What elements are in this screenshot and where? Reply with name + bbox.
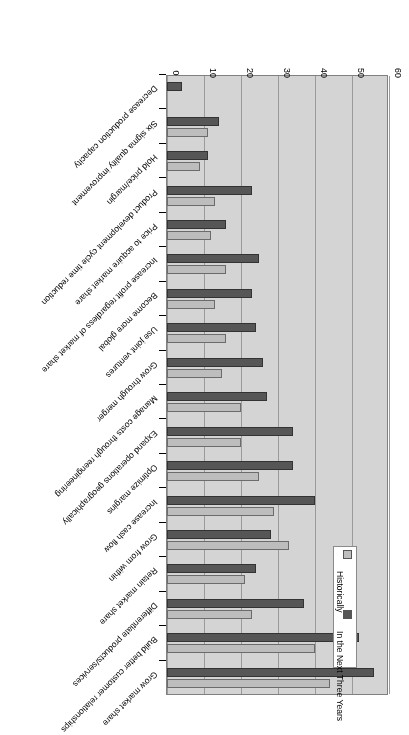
bar-next-three-years	[167, 564, 256, 573]
category-label: Become more global	[97, 290, 160, 353]
bar-group	[167, 350, 387, 384]
bar-group	[167, 418, 387, 452]
bar-historically	[167, 197, 215, 206]
bar-historically	[167, 541, 289, 550]
legend-entry-next-three-years: In the Next Three Years	[334, 607, 356, 667]
bar-next-three-years	[167, 358, 263, 367]
bar-historically	[167, 231, 211, 240]
bar-historically	[167, 679, 330, 688]
bar-next-three-years	[167, 186, 252, 195]
bar-next-three-years	[167, 151, 208, 160]
bar-next-three-years	[167, 461, 293, 470]
bar-group	[167, 246, 387, 280]
bar-next-three-years	[167, 496, 315, 505]
plot-area: Historically In the Next Three Years	[166, 75, 388, 695]
value-tick-label: 30	[282, 58, 292, 88]
legend-entry-historically: Historically	[334, 547, 356, 607]
bar-group	[167, 212, 387, 246]
bar-historically	[167, 265, 226, 274]
value-tick-label: 40	[319, 58, 329, 88]
bar-historically	[167, 438, 241, 447]
bar-next-three-years	[167, 599, 304, 608]
value-tick-label: 0	[171, 58, 181, 88]
category-label: Grow through merger	[95, 359, 160, 424]
bar-next-three-years	[167, 323, 256, 332]
category-label: Product development cycle time reduction	[40, 187, 160, 307]
value-tick-label: 20	[245, 58, 255, 88]
bar-historically	[167, 507, 274, 516]
bar-group	[167, 143, 387, 177]
bar-next-three-years	[167, 289, 252, 298]
legend-swatch-next-three-years	[343, 610, 352, 619]
legend-swatch-historically	[343, 550, 352, 559]
category-axis-labels: Grow market shareBuild better customer r…	[0, 0, 166, 713]
value-axis-ticks: 0102030405060	[166, 41, 388, 73]
bar-group	[167, 177, 387, 211]
bar-historically	[167, 369, 223, 378]
bar-next-three-years	[167, 220, 226, 229]
value-tick-label: 10	[208, 58, 218, 88]
bar-next-three-years	[167, 254, 260, 263]
bar-group	[167, 281, 387, 315]
bar-historically	[167, 575, 245, 584]
bar-next-three-years	[167, 392, 267, 401]
bar-historically	[167, 610, 252, 619]
bar-next-three-years	[167, 530, 271, 539]
legend-label-next-three-years: In the Next Three Years	[335, 631, 345, 727]
value-tick-label: 60	[393, 58, 403, 88]
bar-next-three-years	[167, 427, 293, 436]
bar-historically	[167, 644, 315, 653]
bar-group	[167, 453, 387, 487]
bar-group	[167, 384, 387, 418]
chart-legend: Historically In the Next Three Years	[333, 546, 357, 668]
bar-historically	[167, 334, 226, 343]
bar-historically	[167, 128, 208, 137]
bar-group	[167, 487, 387, 521]
bar-group	[167, 108, 387, 142]
bar-group	[167, 315, 387, 349]
bar-next-three-years	[167, 117, 219, 126]
bar-historically	[167, 300, 215, 309]
bar-historically	[167, 472, 260, 481]
bar-historically	[167, 403, 241, 412]
bar-next-three-years	[167, 633, 359, 642]
gridline	[389, 76, 390, 694]
bar-historically	[167, 162, 200, 171]
value-tick-label: 50	[356, 58, 366, 88]
bar-group	[167, 74, 387, 108]
